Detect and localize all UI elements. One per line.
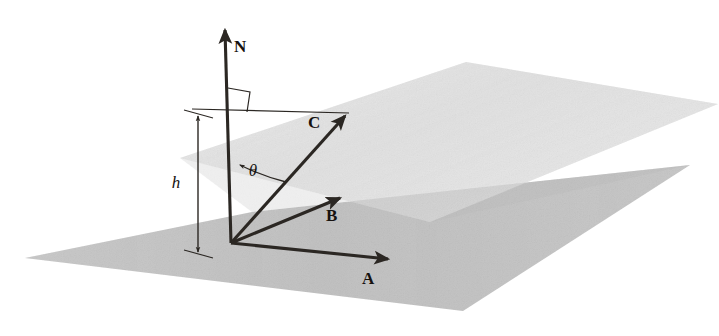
vector-n-label: N bbox=[234, 37, 247, 56]
vector-b-label: B bbox=[326, 206, 337, 225]
vector-a-label: A bbox=[362, 269, 375, 288]
height-label: h bbox=[172, 173, 181, 192]
angle-label-theta: θ bbox=[249, 161, 257, 180]
vector-plane-diagram: h θ N C B A bbox=[0, 0, 719, 336]
vector-c-label: C bbox=[308, 113, 320, 132]
